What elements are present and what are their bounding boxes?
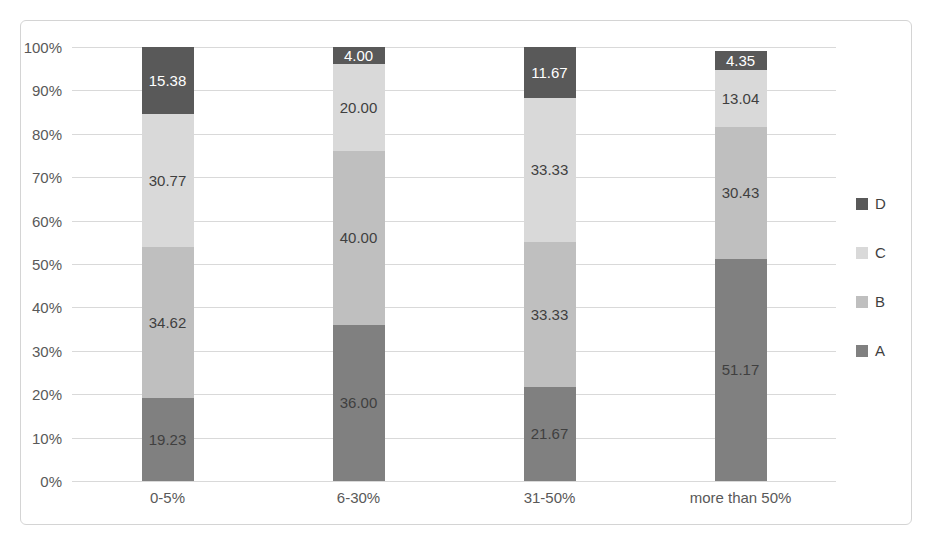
bar-segment-b[interactable]: 40.00 [333,151,385,325]
bar-segment-c[interactable]: 30.77 [142,114,194,248]
y-axis-tick-label: 10% [4,429,62,446]
y-axis: 0%10%20%30%40%50%60%70%80%90%100% [0,47,62,481]
y-axis-tick-label: 0% [4,473,62,490]
bar-segment-d[interactable]: 11.67 [524,47,576,98]
bar-segment-b[interactable]: 34.62 [142,247,194,397]
bar-segment-d[interactable]: 15.38 [142,47,194,114]
stacked-bar[interactable]: 15.3830.7734.6219.23 [142,47,194,481]
bar-segment-a[interactable]: 51.17 [715,259,767,481]
legend-item-c[interactable]: C [856,245,886,260]
x-axis-category-label: more than 50% [690,489,792,506]
legend-swatch-icon [856,247,868,259]
chart-container: 0%10%20%30%40%50%60%70%80%90%100% 15.383… [0,0,934,547]
bar-segment-c[interactable]: 20.00 [333,64,385,151]
legend-label: B [875,294,885,309]
bar-segment-d[interactable]: 4.00 [333,47,385,64]
x-axis: 0-5%6-30%31-50%more than 50% [72,489,836,519]
bar-segment-c[interactable]: 13.04 [715,70,767,127]
chart-legend: DCBA [856,196,886,358]
stacked-bar[interactable]: 11.6733.3333.3321.67 [524,47,576,481]
bar-segment-a[interactable]: 19.23 [142,398,194,481]
legend-item-a[interactable]: A [856,343,886,358]
bar-segment-a[interactable]: 21.67 [524,387,576,481]
y-axis-tick-label: 50% [4,256,62,273]
legend-swatch-icon [856,198,868,210]
bar-segment-b[interactable]: 33.33 [524,242,576,387]
y-axis-tick-label: 80% [4,125,62,142]
bar-segment-b[interactable]: 30.43 [715,127,767,259]
y-axis-tick-label: 70% [4,169,62,186]
stacked-bar[interactable]: 4.0020.0040.0036.00 [333,47,385,481]
y-axis-tick-label: 100% [4,39,62,56]
legend-swatch-icon [856,296,868,308]
x-axis-category-label: 31-50% [524,489,576,506]
x-axis-category-label: 0-5% [150,489,185,506]
x-axis-category-label: 6-30% [337,489,380,506]
gridline [72,481,836,482]
legend-swatch-icon [856,345,868,357]
stacked-bar[interactable]: 4.3513.0430.4351.17 [715,47,767,481]
y-axis-tick-label: 60% [4,212,62,229]
legend-item-b[interactable]: B [856,294,886,309]
y-axis-tick-label: 90% [4,82,62,99]
bar-segment-d[interactable]: 4.35 [715,51,767,70]
bar-segment-a[interactable]: 36.00 [333,325,385,481]
y-axis-tick-label: 20% [4,386,62,403]
y-axis-tick-label: 30% [4,342,62,359]
plot-area: 15.3830.7734.6219.234.0020.0040.0036.001… [72,47,836,481]
bar-segment-c[interactable]: 33.33 [524,98,576,243]
legend-label: A [875,343,885,358]
legend-label: D [875,196,886,211]
legend-item-d[interactable]: D [856,196,886,211]
y-axis-tick-label: 40% [4,299,62,316]
legend-label: C [875,245,886,260]
